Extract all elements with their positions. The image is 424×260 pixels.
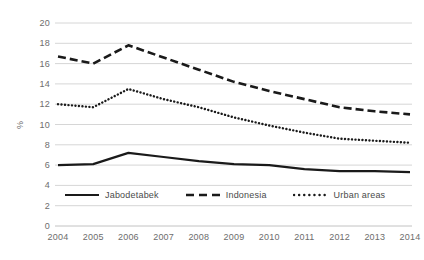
- legend-label: Urban areas: [334, 190, 386, 200]
- legend-swatch-dashed-icon: [185, 191, 221, 199]
- x-axis-tick-label: 2005: [73, 232, 113, 242]
- legend-item-urban-areas[interactable]: Urban areas: [293, 190, 386, 200]
- x-axis-tick-label: 2004: [38, 232, 78, 242]
- x-axis-tick-label: 2009: [214, 232, 254, 242]
- chart-legend: JabodetabekIndonesiaUrban areas: [64, 190, 385, 200]
- x-axis-tick-label: 2006: [108, 232, 148, 242]
- series-line-jabodetabek: [58, 153, 410, 172]
- plot-area: [0, 0, 424, 260]
- series-line-urban-areas: [58, 89, 410, 143]
- legend-swatch-dotted-icon: [293, 191, 329, 199]
- x-axis-tick-labels: 2004200520062007200820092010201120122013…: [0, 232, 424, 252]
- legend-item-jabodetabek[interactable]: Jabodetabek: [64, 190, 159, 200]
- legend-label: Indonesia: [226, 190, 267, 200]
- legend-swatch-solid-icon: [64, 191, 100, 199]
- x-axis-tick-label: 2007: [144, 232, 184, 242]
- x-axis-tick-label: 2012: [320, 232, 360, 242]
- x-axis-tick-label: 2013: [355, 232, 395, 242]
- x-axis-tick-label: 2014: [390, 232, 424, 242]
- series-lines: [58, 45, 410, 172]
- x-axis-tick-label: 2011: [284, 232, 324, 242]
- line-chart: % 20181614121086420 20042005200620072008…: [0, 0, 424, 260]
- x-axis-tick-label: 2008: [179, 232, 219, 242]
- legend-label: Jabodetabek: [105, 190, 159, 200]
- x-axis-tick-label: 2010: [249, 232, 289, 242]
- legend-item-indonesia[interactable]: Indonesia: [185, 190, 267, 200]
